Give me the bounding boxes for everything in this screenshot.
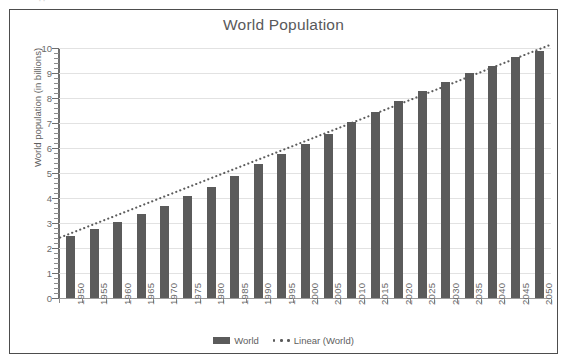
x-tick-label-2000: 2000 xyxy=(309,283,320,305)
x-tick-label-1960: 1960 xyxy=(122,283,133,305)
x-tick-label-2015: 2015 xyxy=(379,283,390,305)
x-tick-label-1955: 1955 xyxy=(98,283,109,305)
bar-2040[interactable] xyxy=(488,66,497,299)
bar-2020[interactable] xyxy=(394,101,403,299)
y-tick-3 xyxy=(52,223,59,224)
y-tick-2 xyxy=(52,248,59,249)
bar-2035[interactable] xyxy=(465,73,474,298)
bar-2025[interactable] xyxy=(418,91,427,299)
y-tick-9 xyxy=(52,73,59,74)
y-tick-label-10: 10 xyxy=(20,43,52,54)
bar-1990[interactable] xyxy=(254,164,263,298)
plot-area xyxy=(59,48,551,298)
legend-entry-linear-world[interactable]: Linear (World) xyxy=(273,335,354,346)
x-tick-label-1985: 1985 xyxy=(239,283,250,305)
x-tick-label-1995: 1995 xyxy=(286,283,297,305)
legend-label-linear-world: Linear (World) xyxy=(294,335,354,346)
top-edge-artifact: ·· xyxy=(38,0,46,6)
y-tick-6 xyxy=(52,148,59,149)
x-tick-label-1950: 1950 xyxy=(75,283,86,305)
y-tick-label-1: 1 xyxy=(20,268,52,279)
bar-2050[interactable] xyxy=(535,51,544,299)
y-tick-label-8: 8 xyxy=(20,93,52,104)
bar-1960[interactable] xyxy=(113,222,122,298)
bar-2010[interactable] xyxy=(347,122,356,298)
legend-dotted-line-icon xyxy=(273,337,290,344)
x-tick xyxy=(59,299,60,303)
x-tick-label-2025: 2025 xyxy=(426,283,437,305)
x-tick-label-1975: 1975 xyxy=(192,283,203,305)
bar-1985[interactable] xyxy=(230,176,239,299)
bar-1975[interactable] xyxy=(183,196,192,299)
y-tick-1 xyxy=(52,273,59,274)
legend-label-world: World xyxy=(234,335,259,346)
x-tick-label-1980: 1980 xyxy=(215,283,226,305)
y-tick-label-4: 4 xyxy=(20,193,52,204)
gridline-8 xyxy=(59,98,551,99)
x-tick-label-2040: 2040 xyxy=(496,283,507,305)
y-tick-5 xyxy=(52,173,59,174)
y-tick-label-3: 3 xyxy=(20,218,52,229)
legend-bar-swatch-icon xyxy=(213,337,230,344)
gridline-7 xyxy=(59,123,551,124)
y-tick-4 xyxy=(52,198,59,199)
x-tick-label-2010: 2010 xyxy=(356,283,367,305)
x-tick-label-2050: 2050 xyxy=(543,283,554,305)
x-tick-label-2005: 2005 xyxy=(332,283,343,305)
bar-2005[interactable] xyxy=(324,134,333,298)
x-tick-label-1970: 1970 xyxy=(168,283,179,305)
gridline-10 xyxy=(59,48,551,49)
y-tick-0 xyxy=(52,298,59,299)
bar-1980[interactable] xyxy=(207,187,216,298)
chart-legend: World Linear (World) xyxy=(10,335,557,346)
x-tick-label-2045: 2045 xyxy=(520,283,531,305)
bar-1950[interactable] xyxy=(66,236,75,299)
bar-2045[interactable] xyxy=(511,57,520,298)
y-tick-label-2: 2 xyxy=(20,243,52,254)
x-tick-label-2020: 2020 xyxy=(403,283,414,305)
x-tick-label-2030: 2030 xyxy=(450,283,461,305)
bar-2030[interactable] xyxy=(441,82,450,298)
y-tick-label-9: 9 xyxy=(20,68,52,79)
x-tick-label-1990: 1990 xyxy=(262,283,273,305)
chart-container: World Population World population (in bi… xyxy=(9,9,558,354)
gridline-9 xyxy=(59,73,551,74)
x-tick-label-1965: 1965 xyxy=(145,283,156,305)
bar-2015[interactable] xyxy=(371,112,380,298)
y-axis-tick-labels: 012345678910 xyxy=(14,10,52,363)
y-tick-label-6: 6 xyxy=(20,143,52,154)
y-tick-label-0: 0 xyxy=(20,293,52,304)
legend-entry-world[interactable]: World xyxy=(213,335,259,346)
y-tick-10 xyxy=(52,48,59,49)
y-tick-label-5: 5 xyxy=(20,168,52,179)
y-tick-7 xyxy=(52,123,59,124)
bar-2000[interactable] xyxy=(301,144,310,298)
y-tick-8 xyxy=(52,98,59,99)
y-tick-label-7: 7 xyxy=(20,118,52,129)
chart-title: World Population xyxy=(10,16,557,34)
x-tick-label-2035: 2035 xyxy=(473,283,484,305)
bar-1995[interactable] xyxy=(277,154,286,298)
